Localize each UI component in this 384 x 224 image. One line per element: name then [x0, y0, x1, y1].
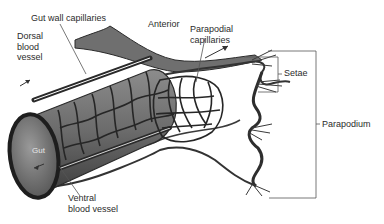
label-dorsal-blood-vessel: Dorsal blood vessel: [17, 31, 43, 63]
label-parapodial-capillaries: Parapodial capillaries: [190, 24, 233, 45]
label-setae: Setae: [284, 68, 308, 79]
parapodium-outline-right: [249, 72, 262, 186]
label-dorsal-line-3: vessel: [17, 52, 43, 63]
label-ventral-blood-vessel: Ventral blood vessel: [68, 193, 118, 214]
setae-bristles: [246, 50, 282, 196]
label-ventral-line-1: Ventral: [68, 193, 118, 204]
label-gut-wall-capillaries: Gut wall capillaries: [31, 13, 106, 24]
label-parapodium: Parapodium: [322, 119, 371, 130]
label-ventral-line-2: blood vessel: [68, 204, 118, 215]
polychaete-circulation-diagram: Gut wall capillaries Anterior Dorsal blo…: [0, 0, 384, 224]
label-dorsal-line-1: Dorsal: [17, 31, 43, 42]
label-dorsal-line-2: blood: [17, 42, 43, 53]
label-anterior: Anterior: [148, 19, 180, 30]
label-parapodial-line-1: Parapodial: [190, 24, 233, 35]
label-gut: Gut: [32, 146, 45, 155]
label-parapodial-line-2: capillaries: [190, 35, 233, 46]
